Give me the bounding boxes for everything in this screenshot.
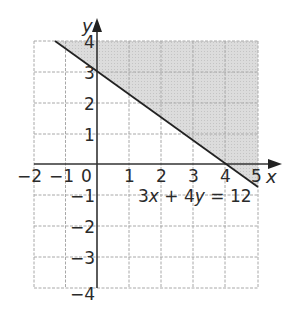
svg-text:−1: −1 <box>49 166 74 186</box>
svg-text:3: 3 <box>84 63 95 83</box>
svg-text:3: 3 <box>188 166 199 186</box>
y-axis-arrow-icon <box>92 18 102 32</box>
svg-text:5: 5 <box>251 166 262 186</box>
coordinate-graph: y x −2 −1 0 1 2 3 4 5 4 3 2 1 −1 −2 −3 −… <box>0 0 295 315</box>
svg-text:2: 2 <box>84 94 95 114</box>
svg-text:−4: −4 <box>70 284 95 304</box>
equation-label: 3x + 4y = 12 <box>138 186 252 206</box>
svg-text:0: 0 <box>81 166 92 186</box>
x-axis-label: x <box>265 166 277 187</box>
svg-text:2: 2 <box>156 166 167 186</box>
svg-text:−2: −2 <box>17 166 42 186</box>
svg-text:−1: −1 <box>70 186 95 206</box>
svg-text:4: 4 <box>84 32 95 52</box>
svg-text:1: 1 <box>124 166 135 186</box>
svg-text:1: 1 <box>84 125 95 145</box>
svg-text:−3: −3 <box>70 248 95 268</box>
x-tick-labels: −2 −1 0 1 2 3 4 5 <box>17 166 262 186</box>
svg-text:4: 4 <box>220 166 231 186</box>
svg-text:−2: −2 <box>70 217 95 237</box>
